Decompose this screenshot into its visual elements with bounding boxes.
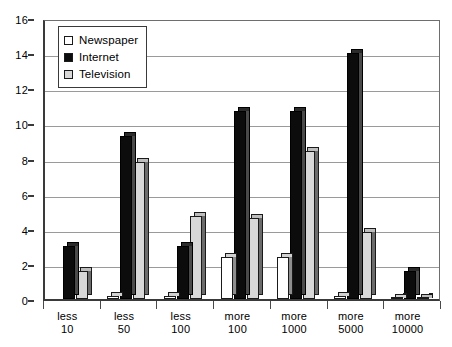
bar-side <box>315 147 319 295</box>
x-tick-label: more100 <box>225 310 251 336</box>
bar-side <box>88 267 92 295</box>
bar-side <box>75 242 79 295</box>
x-tick-label-line: 10 <box>57 323 77 336</box>
x-tick-label-line: more <box>281 310 307 323</box>
bar-side <box>259 214 263 295</box>
legend-swatch-television-icon <box>64 70 73 79</box>
x-tick-mark <box>156 301 157 309</box>
bar-side <box>145 158 149 295</box>
y-tick-label: 12 <box>15 85 28 96</box>
y-tick-mark <box>28 89 34 91</box>
y-tick-mark <box>28 300 34 302</box>
x-tick-label-line: 1000 <box>281 323 307 336</box>
bar-newspaper-1 <box>107 296 119 299</box>
bar-side <box>372 228 376 295</box>
y-tick-mark <box>28 124 34 126</box>
x-tick-mark <box>327 301 328 309</box>
x-tick-label: more5000 <box>338 310 364 336</box>
x-tick-mark <box>213 301 214 309</box>
bar-side <box>233 253 237 295</box>
legend-label: Television <box>79 68 131 80</box>
x-tick-label-line: less <box>57 310 77 323</box>
x-tick-label-line: more <box>225 310 251 323</box>
bar-face <box>107 296 119 299</box>
x-tick-label-line: 100 <box>171 323 191 336</box>
x-tick-label: less10 <box>57 310 77 336</box>
x-tick-label-line: more <box>338 310 364 323</box>
bar-newspaper-2 <box>164 296 176 300</box>
bar-television-6 <box>417 298 429 299</box>
bar-face <box>63 246 75 299</box>
y-tick-mark <box>28 19 34 21</box>
bar-face <box>417 297 429 299</box>
y-tick-label: 10 <box>15 120 28 131</box>
legend-swatch-newspaper-icon <box>64 36 73 45</box>
x-tick-label-line: 100 <box>225 323 251 336</box>
bar-side <box>246 107 250 295</box>
y-tick-mark <box>28 230 34 232</box>
bar-side <box>416 267 420 295</box>
legend-item-newspaper: Newspaper <box>64 32 138 48</box>
bar-newspaper-3 <box>221 257 233 299</box>
legend-label: Internet <box>79 51 119 63</box>
bar-side <box>359 49 363 295</box>
bar-face <box>347 53 359 299</box>
x-tick-label-line: 50 <box>114 323 134 336</box>
y-tick-label: 14 <box>15 50 28 61</box>
y-tick-mark <box>28 265 34 267</box>
y-tick-mark <box>28 160 34 162</box>
bar-newspaper-6 <box>391 298 403 299</box>
bar-side <box>202 212 206 295</box>
bar-newspaper-5 <box>334 296 346 299</box>
x-tick-mark <box>43 301 44 309</box>
bar-side <box>289 253 293 295</box>
x-tick-label-line: less <box>171 310 191 323</box>
bar-side <box>189 242 193 295</box>
y-tick-mark <box>28 195 34 197</box>
x-tick-label-line: 10000 <box>392 323 424 336</box>
y-tick-label: 16 <box>15 15 28 26</box>
bar-face <box>120 136 132 299</box>
chart-legend: NewspaperInternetTelevision <box>58 26 147 88</box>
bar-face <box>221 257 233 299</box>
gridline <box>45 91 439 92</box>
bar-face <box>391 297 403 299</box>
x-tick-mark <box>440 301 441 309</box>
legend-item-internet: Internet <box>64 49 138 65</box>
bar-face <box>277 257 289 299</box>
bar-internet-1 <box>120 136 132 299</box>
x-tick-label-line: more <box>392 310 424 323</box>
x-tick-label: less100 <box>171 310 191 336</box>
x-tick-label: more10000 <box>392 310 424 336</box>
bar-side <box>132 132 136 295</box>
bar-chart: 0246810121416 less10less50less100more100… <box>0 0 452 347</box>
x-tick-label: less50 <box>114 310 134 336</box>
x-tick-mark <box>100 301 101 309</box>
bar-internet-0 <box>63 246 75 299</box>
bar-newspaper-4 <box>277 257 289 299</box>
bar-face <box>164 296 176 300</box>
x-tick-mark <box>383 301 384 309</box>
y-tick-mark <box>28 54 34 56</box>
x-tick-label-line: less <box>114 310 134 323</box>
legend-swatch-internet-icon <box>64 53 73 62</box>
x-tick-label: more1000 <box>281 310 307 336</box>
legend-label: Newspaper <box>79 34 138 46</box>
bar-face <box>334 296 346 299</box>
x-tick-label-line: 5000 <box>338 323 364 336</box>
x-tick-mark <box>270 301 271 309</box>
bar-side <box>302 107 306 295</box>
legend-item-television: Television <box>64 66 138 82</box>
bar-internet-5 <box>347 53 359 299</box>
y-axis: 0246810121416 <box>0 0 43 347</box>
